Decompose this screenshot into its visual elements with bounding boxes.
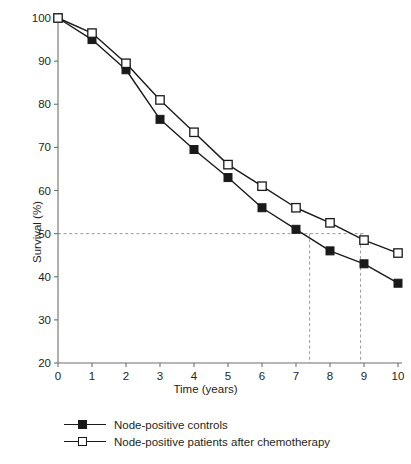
legend-item: Node-positive controls xyxy=(64,416,330,433)
data-point-open-square xyxy=(156,96,164,104)
data-point-open-square xyxy=(224,160,232,168)
open-square-icon xyxy=(64,435,106,449)
series-line xyxy=(58,18,398,253)
data-point-filled-square xyxy=(394,279,402,287)
legend-item-label: Node-positive patients after chemotherap… xyxy=(114,436,330,448)
data-point-filled-square xyxy=(292,225,300,233)
survival-curve-figure: Survival (%) 2030405060708090100 0123456… xyxy=(0,0,411,464)
data-point-open-square xyxy=(360,236,368,244)
x-axis-title: Time (years) xyxy=(0,383,411,395)
data-point-filled-square xyxy=(190,146,198,154)
reference-lines-group xyxy=(58,234,364,363)
chart-legend: Node-positive controls Node-positive pat… xyxy=(64,416,330,450)
data-point-filled-square xyxy=(360,260,368,268)
data-point-open-square xyxy=(122,59,130,67)
data-point-open-square xyxy=(394,249,402,257)
axis-ticks-group xyxy=(54,18,398,367)
filled-square-icon xyxy=(64,418,106,432)
data-point-open-square xyxy=(190,128,198,136)
data-point-open-square xyxy=(88,29,96,37)
data-point-open-square xyxy=(326,219,334,227)
legend-item-label: Node-positive controls xyxy=(114,419,228,431)
data-series-group xyxy=(54,14,402,287)
series-line xyxy=(58,18,398,283)
data-point-filled-square xyxy=(224,174,232,182)
data-point-filled-square xyxy=(326,247,334,255)
axis-spines-group xyxy=(58,16,402,363)
data-point-filled-square xyxy=(258,204,266,212)
data-point-open-square xyxy=(54,14,62,22)
data-point-open-square xyxy=(258,182,266,190)
data-point-open-square xyxy=(292,204,300,212)
data-point-filled-square xyxy=(156,115,164,123)
legend-item: Node-positive patients after chemotherap… xyxy=(64,433,330,450)
